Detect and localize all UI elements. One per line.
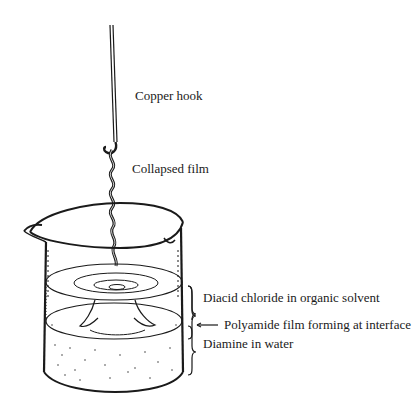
organic-solvent-layer xyxy=(46,264,182,318)
aqueous-layer-stipple xyxy=(51,324,176,380)
label-aqueous-layer: Diamine in water xyxy=(203,337,293,351)
label-interface: Polyamide film forming at interface xyxy=(224,318,411,332)
label-copper-hook: Copper hook xyxy=(135,89,203,103)
label-organic-layer: Diacid chloride in organic solvent xyxy=(203,291,380,305)
beaker xyxy=(24,203,183,392)
interface-film xyxy=(46,300,182,339)
label-collapsed-film: Collapsed film xyxy=(132,162,209,176)
copper-hook-wire xyxy=(104,25,117,153)
